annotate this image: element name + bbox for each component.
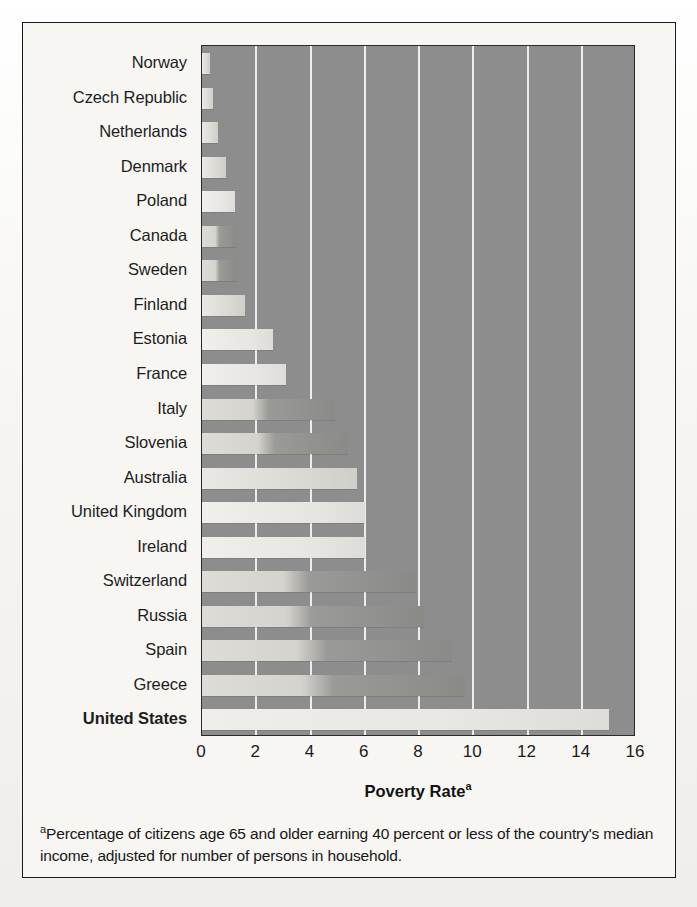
- bar-france: [202, 364, 286, 385]
- y-axis-label-italy: Italy: [157, 391, 187, 426]
- y-axis-label-norway: Norway: [132, 45, 187, 80]
- y-axis-label-canada: Canada: [130, 218, 187, 253]
- bar-row: [202, 46, 634, 81]
- x-axis-title-text: Poverty Rate: [364, 782, 465, 800]
- y-axis-label-poland: Poland: [136, 183, 187, 218]
- y-axis-label-finland: Finland: [134, 287, 187, 322]
- bar-row: [202, 599, 634, 634]
- bar-finland: [202, 295, 245, 316]
- bar-united-kingdom: [202, 502, 365, 523]
- bar-row: [202, 115, 634, 150]
- plot-area: [201, 45, 635, 736]
- y-axis-label-france: France: [136, 356, 187, 391]
- bar-row: [202, 461, 634, 496]
- y-axis-label-australia: Australia: [124, 460, 187, 495]
- bar-row: [202, 288, 634, 323]
- bar-row: [202, 357, 634, 392]
- bar-row: [202, 633, 634, 668]
- x-axis-title: Poverty Ratea: [201, 780, 635, 801]
- y-axis-label-russia: Russia: [137, 598, 187, 633]
- bar-row: [202, 81, 634, 116]
- y-axis-label-denmark: Denmark: [121, 149, 187, 184]
- x-tick-label-0: 0: [196, 742, 205, 762]
- bar-row: [202, 150, 634, 185]
- bar-row: [202, 219, 634, 254]
- y-axis-label-switzerland: Switzerland: [103, 563, 187, 598]
- x-tick-label-8: 8: [413, 742, 422, 762]
- y-axis-label-czech-republic: Czech Republic: [73, 80, 187, 115]
- bar-netherlands: [202, 122, 218, 143]
- x-axis-title-footnote-marker: a: [465, 780, 471, 792]
- y-axis-label-slovenia: Slovenia: [125, 425, 188, 460]
- y-axis-label-estonia: Estonia: [133, 321, 187, 356]
- y-axis-label-sweden: Sweden: [128, 252, 187, 287]
- y-axis-label-greece: Greece: [133, 667, 187, 702]
- bar-greece: [202, 675, 465, 696]
- bar-norway: [202, 53, 210, 74]
- bar-row: [202, 426, 634, 461]
- figure-container: NorwayCzech RepublicNetherlandsDenmarkPo…: [0, 0, 697, 907]
- bar-ireland: [202, 537, 365, 558]
- footnote: aPercentage of citizens age 65 and older…: [40, 818, 654, 867]
- x-tick-label-2: 2: [251, 742, 260, 762]
- bar-denmark: [202, 157, 226, 178]
- bar-row: [202, 253, 634, 288]
- bar-row: [202, 322, 634, 357]
- bar-canada: [202, 226, 237, 247]
- x-tick-label-14: 14: [571, 742, 590, 762]
- bar-czech-republic: [202, 88, 213, 109]
- bar-united-states: [202, 709, 609, 730]
- y-axis-category-labels: NorwayCzech RepublicNetherlandsDenmarkPo…: [0, 45, 195, 736]
- y-axis-label-united-states: United States: [83, 701, 187, 736]
- x-tick-label-4: 4: [305, 742, 314, 762]
- bar-sweden: [202, 260, 237, 281]
- y-axis-label-united-kingdom: United Kingdom: [71, 494, 187, 529]
- bar-italy: [202, 399, 335, 420]
- x-tick-label-16: 16: [626, 742, 645, 762]
- bar-row: [202, 564, 634, 599]
- bar-row: [202, 668, 634, 703]
- x-tick-label-6: 6: [359, 742, 368, 762]
- bar-row: [202, 392, 634, 427]
- bar-russia: [202, 606, 424, 627]
- bar-spain: [202, 640, 452, 661]
- x-tick-label-12: 12: [517, 742, 536, 762]
- bar-row: [202, 702, 634, 736]
- x-tick-label-10: 10: [463, 742, 482, 762]
- bar-switzerland: [202, 571, 416, 592]
- y-axis-label-spain: Spain: [145, 632, 187, 667]
- bar-estonia: [202, 329, 273, 350]
- x-axis: 0246810121416: [201, 736, 635, 776]
- y-axis-label-netherlands: Netherlands: [99, 114, 187, 149]
- bar-row: [202, 530, 634, 565]
- footnote-text: Percentage of citizens age 65 and older …: [40, 825, 653, 864]
- bar-row: [202, 184, 634, 219]
- bar-poland: [202, 191, 235, 212]
- bar-australia: [202, 468, 357, 489]
- y-axis-label-ireland: Ireland: [137, 529, 187, 564]
- bar-slovenia: [202, 433, 348, 454]
- bar-row: [202, 495, 634, 530]
